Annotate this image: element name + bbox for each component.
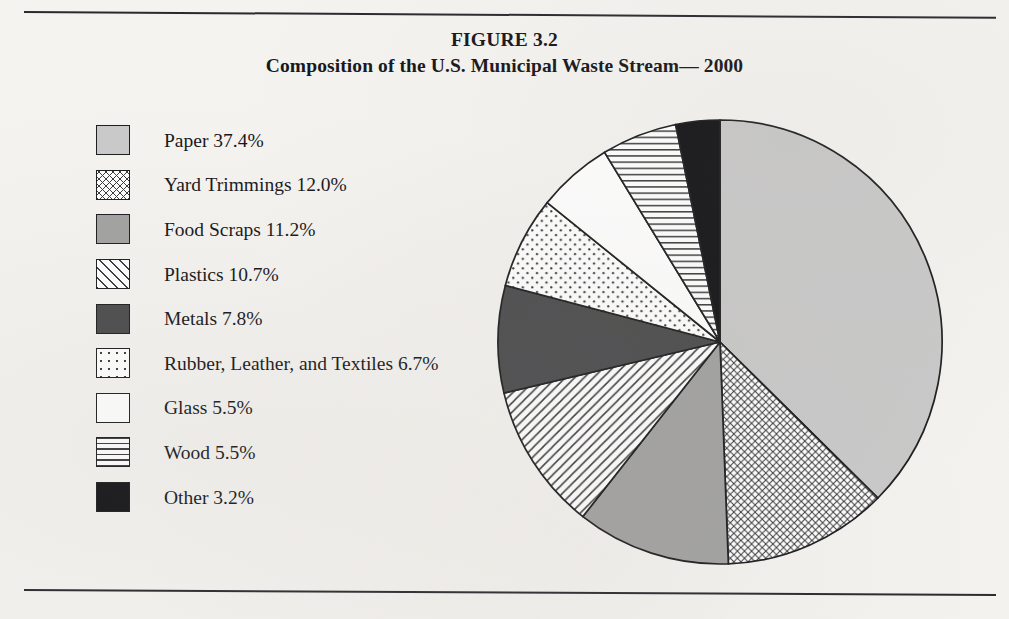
legend-label: Metals 7.8% (164, 308, 263, 329)
chart-legend: Paper 37.4%Yard Trimmings 12.0%Food Scra… (96, 118, 439, 519)
legend-swatch-white (96, 393, 130, 423)
figure-title: Composition of the U.S. Municipal Waste … (0, 52, 1009, 79)
bottom-horizontal-rule (24, 589, 996, 596)
legend-swatch-solid-black (96, 482, 130, 512)
legend-row: Rubber, Leather, and Textiles 6.7% (96, 341, 439, 386)
legend-row: Other 3.2% (96, 475, 439, 520)
legend-row: Plastics 10.7% (96, 252, 439, 297)
legend-row: Yard Trimmings 12.0% (96, 163, 439, 208)
legend-label: Glass 5.5% (164, 397, 253, 418)
legend-label: Other 3.2% (164, 487, 254, 508)
legend-label: Plastics 10.7% (164, 264, 279, 285)
legend-swatch-solid-medium (96, 214, 130, 244)
top-horizontal-rule (24, 11, 996, 19)
legend-row: Food Scraps 11.2% (96, 207, 439, 252)
legend-swatch-solid-dark (96, 304, 130, 334)
legend-row: Glass 5.5% (96, 386, 439, 431)
pie-chart (496, 118, 944, 566)
legend-row: Metals 7.8% (96, 296, 439, 341)
figure-title-block: FIGURE 3.2 Composition of the U.S. Munic… (0, 27, 1009, 79)
legend-swatch-diagonal (96, 259, 130, 289)
legend-swatch-dotted (96, 348, 130, 378)
legend-swatch-crosshatch (96, 170, 130, 200)
legend-label: Paper 37.4% (164, 130, 264, 151)
legend-label: Wood 5.5% (164, 442, 256, 463)
legend-row: Wood 5.5% (96, 430, 439, 475)
legend-swatch-horizontal (96, 437, 130, 467)
legend-label: Rubber, Leather, and Textiles 6.7% (164, 353, 439, 374)
pie-chart-svg (496, 118, 944, 566)
figure-number: FIGURE 3.2 (0, 27, 1009, 52)
legend-swatch-solid-light (96, 125, 130, 155)
legend-label: Food Scraps 11.2% (164, 219, 315, 240)
legend-row: Paper 37.4% (96, 118, 439, 163)
legend-label: Yard Trimmings 12.0% (164, 174, 347, 195)
